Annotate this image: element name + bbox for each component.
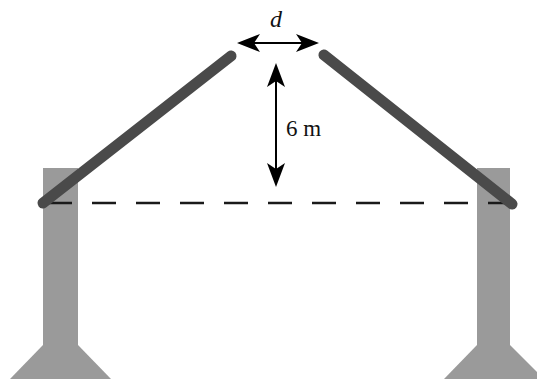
gap-label: d: [270, 6, 282, 33]
height-label: 6 m: [286, 116, 321, 142]
diagram-canvas: d 6 m: [0, 0, 537, 392]
height-arrow-icon: [267, 63, 285, 187]
left-pillar: [10, 168, 111, 379]
gap-arrow-icon: [237, 34, 319, 52]
left-beam: [43, 56, 231, 203]
right-beam: [324, 55, 512, 204]
right-pillar: [444, 168, 537, 379]
diagram-drawing: [0, 0, 537, 392]
